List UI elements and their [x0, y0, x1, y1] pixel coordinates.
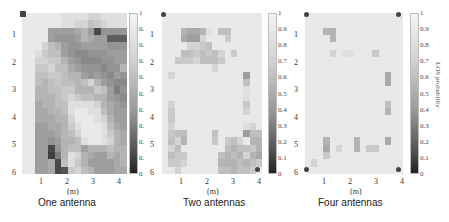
heatmap-cell	[397, 130, 403, 137]
heatmap-cell	[397, 152, 403, 159]
x-tick-label: 2	[348, 178, 352, 186]
heatmap-cell	[256, 72, 262, 79]
y-tick-label: 2	[150, 59, 154, 67]
y-tick-label: 5	[294, 141, 298, 149]
colorbar-tick-label: 0.1	[420, 155, 429, 162]
heatmap-cell	[120, 167, 127, 174]
y-tick-label: 1	[294, 31, 298, 39]
heatmap-cell	[120, 123, 127, 130]
panel-title: Four antennas	[318, 197, 383, 208]
colorbar-tick-label: 0.4	[278, 107, 287, 114]
colorbar	[410, 13, 419, 174]
heatmap-cell	[120, 159, 127, 166]
heatmap-cell	[256, 130, 262, 137]
colorbar-tick-label: 0.	[139, 58, 144, 65]
colorbar-tick-label: 0.	[139, 139, 144, 146]
colorbar-tick-label: 0.7	[278, 58, 287, 65]
heatmap-cell	[256, 35, 262, 42]
y-tick-label: 6	[294, 169, 298, 177]
colorbar-tick-label: 0	[278, 171, 282, 178]
heatmap-cell	[120, 115, 127, 122]
heatmap-cell	[120, 145, 127, 152]
heatmap-cell	[397, 42, 403, 49]
colorbar-tick-label: 0.	[139, 91, 144, 98]
y-tick-label: 2	[294, 59, 298, 67]
y-tick-label: 3	[150, 86, 154, 94]
x-tick-label: 3	[374, 178, 378, 186]
heatmap-cell	[256, 42, 262, 49]
heatmap-cell	[397, 35, 403, 42]
colorbar-tick-label: 0.	[139, 107, 144, 114]
colorbar-tick-label: 1	[278, 10, 282, 17]
heatmap-cell	[120, 130, 127, 137]
heatmap-cell	[120, 101, 127, 108]
x-tick-label: 2	[205, 178, 209, 186]
antenna-marker	[20, 11, 26, 17]
heatmap-cell	[256, 28, 262, 35]
antenna-marker	[304, 12, 309, 17]
heatmap-cell	[120, 108, 127, 115]
colorbar-label: LOS probability	[434, 62, 442, 108]
colorbar	[129, 13, 138, 174]
heatmap-cell	[397, 28, 403, 35]
x-axis-label: (m)	[67, 187, 79, 196]
colorbar-tick-label: 0.3	[420, 123, 429, 130]
heatmap-plot	[305, 13, 403, 174]
colorbar-tick-label: 0.	[139, 26, 144, 33]
heatmap-cell	[120, 94, 127, 101]
heatmap-cell	[256, 123, 262, 130]
heatmap-cell	[397, 64, 403, 71]
heatmap-cell	[120, 57, 127, 64]
heatmap-cell	[120, 64, 127, 71]
heatmap-cell	[256, 115, 262, 122]
heatmap-cell	[397, 108, 403, 115]
y-tick-label: 5	[12, 141, 16, 149]
colorbar-tick-label: 0	[420, 171, 424, 178]
colorbar-tick-label: 0.2	[420, 139, 429, 146]
x-tick-label: 3	[231, 178, 235, 186]
y-tick-label: 3	[294, 86, 298, 94]
heatmap-cell	[120, 152, 127, 159]
colorbar-tick-label: 0.1	[278, 155, 287, 162]
colorbar-tick-label: 0.5	[420, 91, 429, 98]
heatmap-cell	[120, 72, 127, 79]
colorbar-tick-label: 0.7	[420, 58, 429, 65]
x-tick-label: 1	[39, 178, 43, 186]
heatmap-cell	[397, 137, 403, 144]
antenna-marker	[255, 167, 260, 172]
heatmap-cell	[397, 57, 403, 64]
heatmap-cell	[120, 137, 127, 144]
heatmap-cell	[256, 50, 262, 57]
heatmap-cell	[397, 20, 403, 27]
colorbar-tick-label: 0.3	[278, 123, 287, 130]
x-tick-label: 1	[322, 178, 326, 186]
heatmap-cell	[120, 42, 127, 49]
heatmap-cell	[397, 101, 403, 108]
antenna-marker	[396, 12, 401, 17]
heatmap-cell	[120, 28, 127, 35]
colorbar-tick-label: 0.8	[420, 42, 429, 49]
y-tick-label: 4	[12, 114, 16, 122]
heatmap-cell	[397, 72, 403, 79]
colorbar-tick-label: 1	[420, 10, 424, 17]
heatmap-cell	[120, 35, 127, 42]
heatmap-cell	[397, 123, 403, 130]
heatmap-cell	[256, 137, 262, 144]
x-tick-label: 3	[91, 178, 95, 186]
heatmap-cell	[256, 152, 262, 159]
colorbar-tick-label: 0.2	[278, 139, 287, 146]
x-axis-label: (m)	[207, 187, 219, 196]
colorbar-tick-label: 0.4	[420, 107, 429, 114]
colorbar-tick-label: 0.	[139, 155, 144, 162]
heatmap-cell	[120, 50, 127, 57]
heatmap-cell	[397, 94, 403, 101]
y-tick-label: 1	[150, 31, 154, 39]
panel-title: Two antennas	[183, 197, 245, 208]
y-tick-label: 4	[150, 114, 154, 122]
heatmap-cell	[256, 13, 262, 20]
y-tick-label: 6	[150, 169, 154, 177]
heatmap-cell	[256, 145, 262, 152]
colorbar	[268, 13, 277, 174]
heatmap-cell	[397, 159, 403, 166]
colorbar-tick-label: 0.5	[278, 91, 287, 98]
